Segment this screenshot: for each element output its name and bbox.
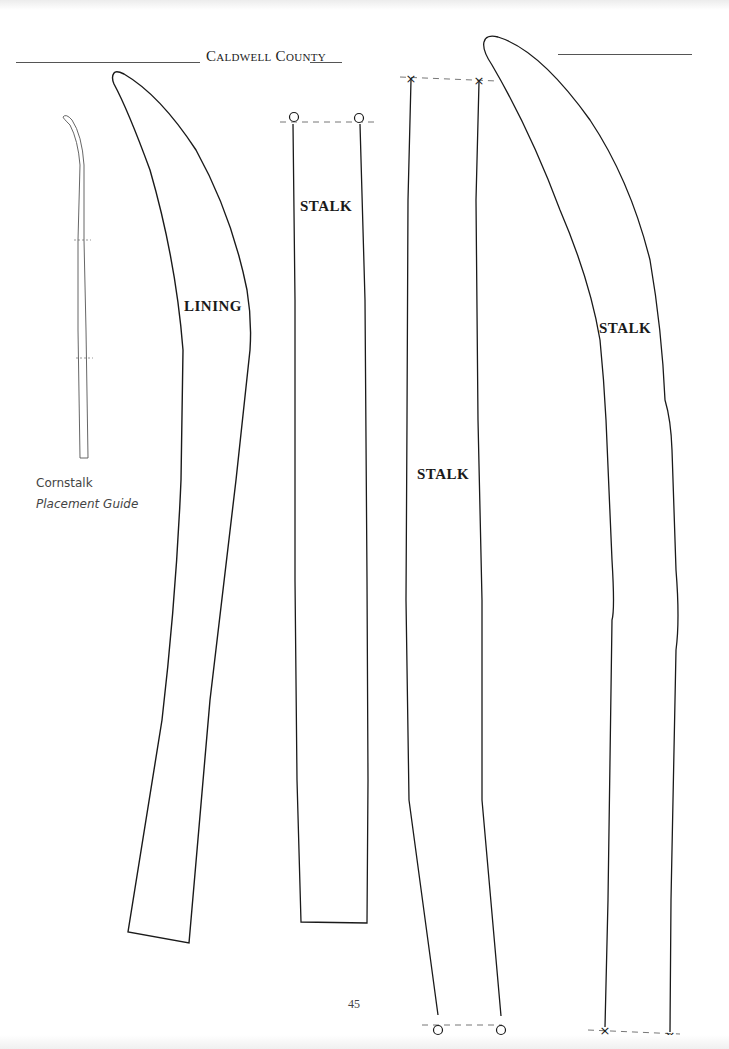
registration-cross-icon: ×	[406, 71, 417, 86]
stalk-label-1: STALK	[300, 198, 352, 215]
stalk-piece-2-outline: × ×	[400, 71, 506, 1035]
lining-label: LINING	[184, 298, 242, 315]
registration-cross-icon: ×	[474, 73, 485, 88]
registration-circle-icon	[355, 114, 364, 123]
registration-circle-icon	[434, 1026, 443, 1035]
placement-guide-title: Cornstalk	[36, 476, 93, 490]
placement-guide-shape	[63, 116, 93, 458]
stalk-label-2: STALK	[417, 466, 469, 483]
registration-circle-icon	[497, 1026, 506, 1035]
scan-bottom-edge	[0, 1035, 729, 1049]
page-number: 45	[348, 997, 360, 1012]
stalk-piece-3-outline: × ×	[484, 36, 680, 1043]
pattern-drawing: × × × ×	[0, 0, 729, 1049]
stalk-piece-1-outline	[280, 113, 376, 924]
placement-guide-subtitle: Placement Guide	[36, 497, 138, 511]
registration-circle-icon	[290, 113, 299, 122]
stalk-label-3: STALK	[599, 320, 651, 337]
